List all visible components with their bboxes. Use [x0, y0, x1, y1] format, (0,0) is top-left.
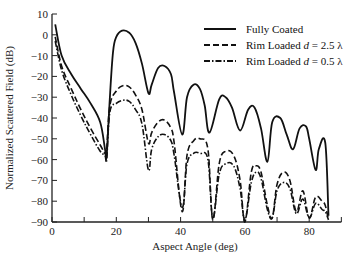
legend-label: Fully Coated	[246, 23, 304, 35]
legend: Fully CoatedRim Loaded d = 2.5 λRim Load…	[204, 23, 343, 67]
y-tick-label: 10	[37, 8, 49, 20]
x-tick-label: 40	[175, 225, 187, 237]
x-tick-label: 20	[111, 225, 123, 237]
y-tick-label: −80	[31, 195, 49, 207]
chart: 100−10−20−30−40−50−60−70−80−90020406080 …	[0, 0, 346, 263]
y-axis-label: Normalized Scattered Field (dB)	[3, 46, 16, 190]
legend-label: Rim Loaded d = 2.5 λ	[246, 39, 343, 51]
y-tick-label: −90	[31, 216, 49, 228]
x-axis-label: Aspect Angle (deg)	[152, 240, 238, 253]
series-line-solid	[55, 24, 328, 215]
y-tick-label: −10	[31, 50, 49, 62]
y-tick-label: −50	[31, 133, 49, 145]
y-tick-label: 0	[43, 29, 49, 41]
y-tick-label: −20	[31, 70, 49, 82]
y-tick-label: −40	[31, 112, 49, 124]
x-tick-label: 80	[304, 225, 316, 237]
x-tick-label: 60	[239, 225, 251, 237]
y-tick-label: −60	[31, 154, 49, 166]
legend-label: Rim Loaded d = 0.5 λ	[246, 55, 343, 67]
y-tick-label: −30	[31, 91, 49, 103]
series-line-dash-dot	[55, 41, 328, 220]
x-tick-label: 0	[49, 225, 55, 237]
y-tick-label: −70	[31, 174, 49, 186]
